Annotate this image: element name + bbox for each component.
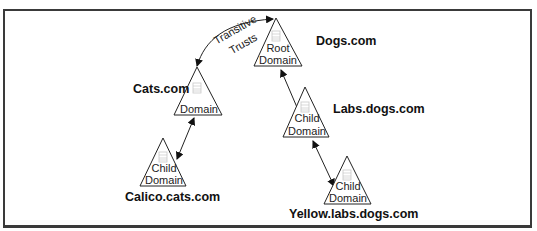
svg-text:Domain: Domain — [259, 54, 297, 66]
svg-text:Domain: Domain — [329, 192, 367, 204]
svg-text:Domain: Domain — [180, 103, 218, 115]
trust-arrow-labs-yellow — [313, 141, 334, 186]
label-calico-cats-com: Calico.cats.com — [125, 190, 220, 204]
svg-text:Domain: Domain — [288, 125, 326, 137]
svg-text:Domain: Domain — [145, 174, 183, 186]
label-dogs-com: Dogs.com — [316, 34, 376, 48]
trust-arrow-cats-calico — [177, 118, 194, 159]
node-labs-child-domain: Child Domain — [283, 87, 329, 137]
svg-text:Child: Child — [335, 180, 360, 192]
svg-text:Root: Root — [266, 42, 289, 54]
node-calico-child-domain: Child Domain — [140, 138, 186, 186]
svg-text:Child: Child — [294, 112, 319, 124]
label-labs-dogs-com: Labs.dogs.com — [333, 102, 425, 116]
svg-text:Child: Child — [151, 162, 176, 174]
node-dogs-root-domain: Root Domain — [254, 18, 302, 66]
label-yellow-labs-dogs-com: Yellow.labs.dogs.com — [289, 207, 418, 221]
domain-tree-diagram: Transitive Trusts Root Domain Domain Chi… — [0, 0, 537, 231]
label-cats-com: Cats.com — [133, 82, 189, 96]
